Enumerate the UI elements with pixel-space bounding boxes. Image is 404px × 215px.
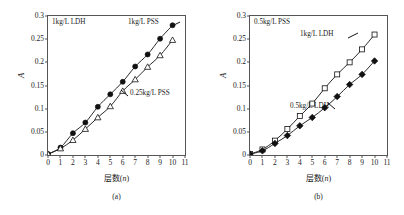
- x-tick-label: 7: [335, 159, 339, 167]
- data-point-filled-circle: [120, 79, 125, 84]
- plot-area-a: 00.050.10.150.20.250.301234567891011: [47, 15, 186, 156]
- x-tick-label: 8: [146, 159, 150, 167]
- y-tick-label: 0.15: [31, 82, 44, 90]
- x-tick-label: 5: [108, 159, 112, 167]
- data-point-open-square: [335, 72, 340, 77]
- data-point-filled-diamond: [309, 114, 316, 121]
- chart-panel-a: A 00.050.10.150.20.250.301234567891011 层…: [0, 0, 202, 215]
- fit-line: [250, 35, 375, 155]
- x-tick-label: 2: [71, 159, 75, 167]
- x-tick-label: 10: [169, 159, 177, 167]
- y-tick-label: 0.05: [233, 128, 246, 136]
- series-1kg-l-ldh: [250, 32, 377, 155]
- y-tick-label: 0.2: [35, 59, 44, 67]
- data-point-filled-circle: [83, 120, 88, 125]
- x-tick-label: 1: [59, 159, 63, 167]
- x-tick-label: 8: [348, 159, 352, 167]
- x-tick-label: 3: [285, 159, 289, 167]
- x-tick-label: 0: [248, 159, 252, 167]
- x-tick-label: 0: [46, 159, 50, 167]
- plot-annotation: 1kg/L LDH: [52, 19, 85, 26]
- x-tick-label: 6: [323, 159, 327, 167]
- caption-a: (a): [47, 192, 186, 201]
- plot-annotation: 0.5kg/L LDH: [290, 103, 329, 110]
- x-tick-label: 7: [133, 159, 137, 167]
- y-tick-label: 0.25: [31, 35, 44, 43]
- data-point-filled-circle: [95, 104, 100, 109]
- x-tick-label: 1: [261, 159, 265, 167]
- plot-annotation: 0.25kg/L PSS: [130, 90, 170, 97]
- data-point-open-square: [297, 114, 302, 119]
- data-point-open-square: [322, 86, 327, 91]
- data-point-open-square: [372, 32, 377, 37]
- caption-b: (b): [249, 192, 388, 201]
- figure-container: A 00.050.10.150.20.250.301234567891011 层…: [0, 0, 404, 215]
- x-axis-label-a: 层数(n): [47, 172, 186, 183]
- data-point-filled-diamond: [284, 132, 291, 139]
- y-tick-label: 0.1: [237, 105, 246, 113]
- y-tick-label: 0.3: [237, 12, 246, 20]
- x-tick-label: 11: [383, 159, 390, 167]
- y-axis-label-b: A: [218, 73, 228, 78]
- plot-annotation: 0.5kg/L PSS: [254, 19, 290, 26]
- x-tick-label: 9: [360, 159, 364, 167]
- x-tick-label: 3: [83, 159, 87, 167]
- data-point-filled-circle: [145, 52, 150, 57]
- data-point-filled-circle: [70, 131, 75, 136]
- x-tick-label: 6: [121, 159, 125, 167]
- data-point-filled-circle: [133, 64, 138, 69]
- chart-svg: [48, 16, 185, 155]
- x-tick-label: 4: [96, 159, 100, 167]
- data-point-open-square: [347, 60, 352, 65]
- plot-annotation: 1kg/L LDH: [300, 31, 333, 38]
- x-tick-label: 5: [310, 159, 314, 167]
- data-point-filled-circle: [170, 23, 175, 28]
- data-point-open-square: [360, 47, 365, 52]
- y-tick-label: 0.2: [237, 59, 246, 67]
- chart-panel-b: A 00.050.10.150.20.250.301234567891011 层…: [202, 0, 404, 215]
- x-tick-label: 2: [273, 159, 277, 167]
- x-tick-label: 10: [371, 159, 379, 167]
- y-tick-label: 0.3: [35, 12, 44, 20]
- data-point-open-square: [285, 127, 290, 132]
- x-tick-label: 4: [298, 159, 302, 167]
- data-point-filled-circle: [108, 92, 113, 97]
- y-tick-label: 0: [40, 151, 44, 159]
- y-tick-label: 0.05: [31, 128, 44, 136]
- plot-annotation: 1kg/L PSS: [128, 19, 159, 26]
- x-axis-label-b: 层数(n): [249, 172, 388, 183]
- data-point-open-triangle: [169, 37, 175, 42]
- y-tick-label: 0: [242, 151, 246, 159]
- y-tick-label: 0.25: [233, 35, 246, 43]
- y-axis-label-a: A: [16, 73, 26, 78]
- x-tick-label: 11: [181, 159, 188, 167]
- data-point-filled-circle: [158, 36, 163, 41]
- x-tick-label: 9: [158, 159, 162, 167]
- y-tick-label: 0.15: [233, 82, 246, 90]
- y-tick-label: 0.1: [35, 105, 44, 113]
